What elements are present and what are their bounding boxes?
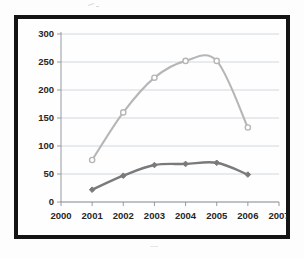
data-point-marker: [245, 125, 250, 130]
y-axis-tick-labels: 050100150200250300: [38, 28, 54, 207]
x-tick-label: 2001: [82, 210, 104, 221]
data-point-marker: [152, 162, 158, 168]
data-point-marker: [152, 75, 157, 80]
data-point-marker: [121, 110, 126, 115]
x-tick-label: 2007: [268, 210, 287, 221]
series-series-upper: [90, 55, 251, 162]
series-line: [92, 55, 248, 160]
y-tick-label: 100: [38, 140, 54, 151]
x-tick-label: 2002: [113, 210, 134, 221]
x-tick-label: 2003: [144, 210, 165, 221]
data-point-marker: [90, 157, 95, 162]
chart-canvas: 050100150200250300 200020012002200320042…: [19, 20, 287, 236]
line-chart: 050100150200250300 200020012002200320042…: [19, 20, 287, 236]
x-tick-label: 2004: [175, 210, 197, 221]
gridlines: [61, 34, 279, 202]
data-point-marker: [183, 161, 189, 167]
scan-artifact: [150, 246, 158, 247]
y-tick-label: 200: [38, 84, 54, 95]
series-series-lower: [89, 160, 250, 192]
x-axis-tick-labels: 20002001200220032004200520062007: [50, 210, 287, 221]
series-layer: [89, 55, 250, 192]
scanned-page-background: 050100150200250300 200020012002200320042…: [0, 0, 304, 259]
chart-frame-inner: 050100150200250300 200020012002200320042…: [18, 19, 286, 235]
y-tick-label: 250: [38, 56, 54, 67]
chart-frame: 050100150200250300 200020012002200320042…: [14, 15, 290, 239]
y-tick-label: 50: [43, 168, 54, 179]
x-tick-label: 2000: [50, 210, 71, 221]
axes: [57, 32, 279, 206]
data-point-marker: [214, 160, 220, 166]
x-tick-label: 2006: [237, 210, 258, 221]
data-point-marker: [214, 58, 219, 63]
series-line: [92, 162, 248, 190]
scan-artifact: [96, 6, 99, 7]
scan-artifact: [88, 3, 94, 6]
y-tick-label: 300: [38, 28, 54, 39]
y-tick-label: 0: [49, 196, 54, 207]
y-tick-label: 150: [38, 112, 54, 123]
data-point-marker: [183, 58, 188, 63]
x-tick-label: 2005: [206, 210, 228, 221]
